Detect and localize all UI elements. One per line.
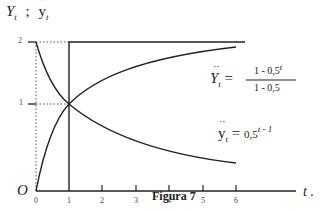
y-axis-title: ·· Yt ; ·· yt — [6, 3, 49, 22]
ytick-label-2: 2 — [18, 36, 22, 45]
formula-lower: ··yt = 0,5t - 1 — [218, 124, 272, 144]
xtick-label-0: 0 — [34, 196, 38, 205]
figure-plot — [0, 0, 330, 210]
curve-Y-increasing — [36, 47, 236, 191]
xtick-label-6: 6 — [234, 196, 238, 205]
origin-label: O — [17, 182, 28, 199]
formula-upper-denominator: 1 - 0,5 — [254, 82, 280, 93]
figure-caption: Figura 7 — [152, 189, 196, 204]
formula-upper-lhs: ··Yt = — [210, 70, 233, 89]
curve-y-decreasing — [36, 42, 236, 163]
xtick-label-1: 1 — [67, 196, 71, 205]
ytick-label-1: 1 — [19, 98, 23, 107]
xtick-label-3: 3 — [134, 196, 138, 205]
xtick-label-5: 5 — [201, 196, 205, 205]
xtick-label-2: 2 — [100, 196, 104, 205]
x-axis-label: t . — [303, 184, 314, 200]
formula-upper-numerator: 1 - 0,5t — [254, 62, 282, 76]
